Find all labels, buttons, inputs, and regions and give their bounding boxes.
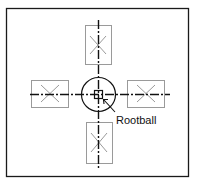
rootball-label: Rootball — [116, 114, 156, 126]
box-bottom — [87, 123, 113, 164]
rootball-diagram: Rootball — [0, 0, 197, 188]
frame-border — [7, 9, 189, 177]
